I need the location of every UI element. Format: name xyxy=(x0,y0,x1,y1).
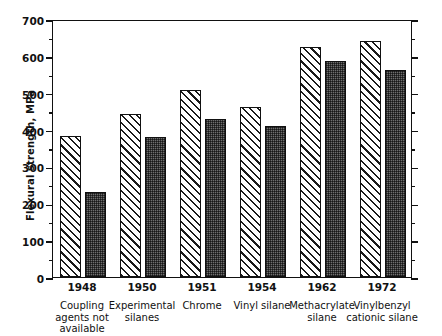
y-axis-minor-tick xyxy=(49,186,53,187)
y-axis-major-tick xyxy=(46,241,53,242)
y-axis-major-tick xyxy=(46,278,53,279)
y-axis-tick-label: 700 xyxy=(22,16,44,27)
x-axis-year-label: 1972 xyxy=(352,282,412,293)
y-axis-major-tick xyxy=(46,131,53,132)
x-axis-year-label: 1950 xyxy=(112,282,172,293)
y-axis-right-major-tick xyxy=(411,168,418,169)
bar-1951-wet xyxy=(205,119,226,277)
bar-group xyxy=(60,21,106,277)
bar-1951-dry xyxy=(180,90,201,277)
y-axis-tick-label: 0 xyxy=(37,274,44,285)
y-axis-minor-tick xyxy=(49,260,53,261)
y-axis-major-tick xyxy=(46,20,53,21)
y-axis-minor-tick xyxy=(49,76,53,77)
bar-1948-dry xyxy=(60,136,81,277)
y-axis-right-minor-tick xyxy=(411,112,415,113)
y-axis-minor-tick xyxy=(49,149,53,150)
x-axis-year-label: 1948 xyxy=(52,282,112,293)
bar-1962-dry xyxy=(300,47,321,277)
x-axis-year-label: 1951 xyxy=(172,282,232,293)
bar-1954-dry xyxy=(240,107,261,277)
bar-group xyxy=(120,21,166,277)
y-axis-right-minor-tick xyxy=(411,223,415,224)
y-axis-right-minor-tick xyxy=(411,186,415,187)
bar-1972-wet xyxy=(385,70,406,277)
y-axis-tick-label: 400 xyxy=(22,126,44,137)
y-axis-right-major-tick xyxy=(411,20,418,21)
y-axis-minor-tick xyxy=(49,39,53,40)
y-axis-major-tick xyxy=(46,168,53,169)
y-axis-major-tick xyxy=(46,57,53,58)
y-axis-major-tick xyxy=(46,205,53,206)
y-axis-right-minor-tick xyxy=(411,149,415,150)
y-axis-right-minor-tick xyxy=(411,260,415,261)
plot-area: 0100200300400500600700 xyxy=(52,20,412,278)
flexural-strength-bar-chart: Flexural strength, MPa 01002003004005006… xyxy=(0,0,442,336)
y-axis-tick-label: 500 xyxy=(22,89,44,100)
x-axis-year-label: 1962 xyxy=(292,282,352,293)
y-axis-major-tick xyxy=(46,94,53,95)
y-axis-right-minor-tick xyxy=(411,39,415,40)
bar-1954-wet xyxy=(265,126,286,277)
bar-group xyxy=(360,21,406,277)
bar-1950-wet xyxy=(145,137,166,277)
y-axis-right-major-tick xyxy=(411,131,418,132)
y-axis-right-major-tick xyxy=(411,278,418,279)
y-axis-tick-label: 100 xyxy=(22,237,44,248)
y-axis-tick-label: 600 xyxy=(22,53,44,64)
x-axis-category-label: Vinylbenzyl cationic silane xyxy=(346,300,418,323)
bar-1972-dry xyxy=(360,41,381,277)
y-axis-minor-tick xyxy=(49,223,53,224)
bar-group xyxy=(240,21,286,277)
y-axis-tick-label: 300 xyxy=(22,163,44,174)
y-axis-right-major-tick xyxy=(411,94,418,95)
x-axis-year-label: 1954 xyxy=(232,282,292,293)
y-axis-right-major-tick xyxy=(411,205,418,206)
bar-group xyxy=(300,21,346,277)
y-axis-minor-tick xyxy=(49,112,53,113)
y-axis-right-major-tick xyxy=(411,241,418,242)
y-axis-right-minor-tick xyxy=(411,76,415,77)
bar-1962-wet xyxy=(325,61,346,277)
bar-1948-wet xyxy=(85,192,106,278)
bar-group xyxy=(180,21,226,277)
bar-1950-dry xyxy=(120,114,141,277)
y-axis-tick-label: 200 xyxy=(22,200,44,211)
y-axis-right-major-tick xyxy=(411,57,418,58)
